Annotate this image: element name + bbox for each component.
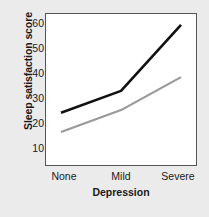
data-series-gray-line <box>61 77 181 132</box>
y-tick-label: 30 <box>22 93 44 103</box>
y-tick-label: 50 <box>22 43 44 53</box>
y-tick-label: 20 <box>22 118 44 128</box>
plot-svg <box>46 14 196 165</box>
data-series-black-line <box>61 25 181 113</box>
y-tick-label: 60 <box>22 18 44 28</box>
x-tick-label: None <box>51 170 76 182</box>
x-tick-label: Severe <box>161 170 194 182</box>
y-tick-label: 10 <box>22 143 44 153</box>
y-tick-label: 40 <box>22 68 44 78</box>
x-tick-label: Mild <box>111 170 130 182</box>
x-axis-tick-labels: None Mild Severe <box>45 170 197 186</box>
x-axis-title: Depression <box>45 186 197 198</box>
chart-figure: Sleep satisfaction score 60 50 40 30 20 … <box>0 0 209 217</box>
y-axis-tick-labels: 60 50 40 30 20 10 <box>22 0 44 217</box>
plot-area <box>45 13 197 166</box>
